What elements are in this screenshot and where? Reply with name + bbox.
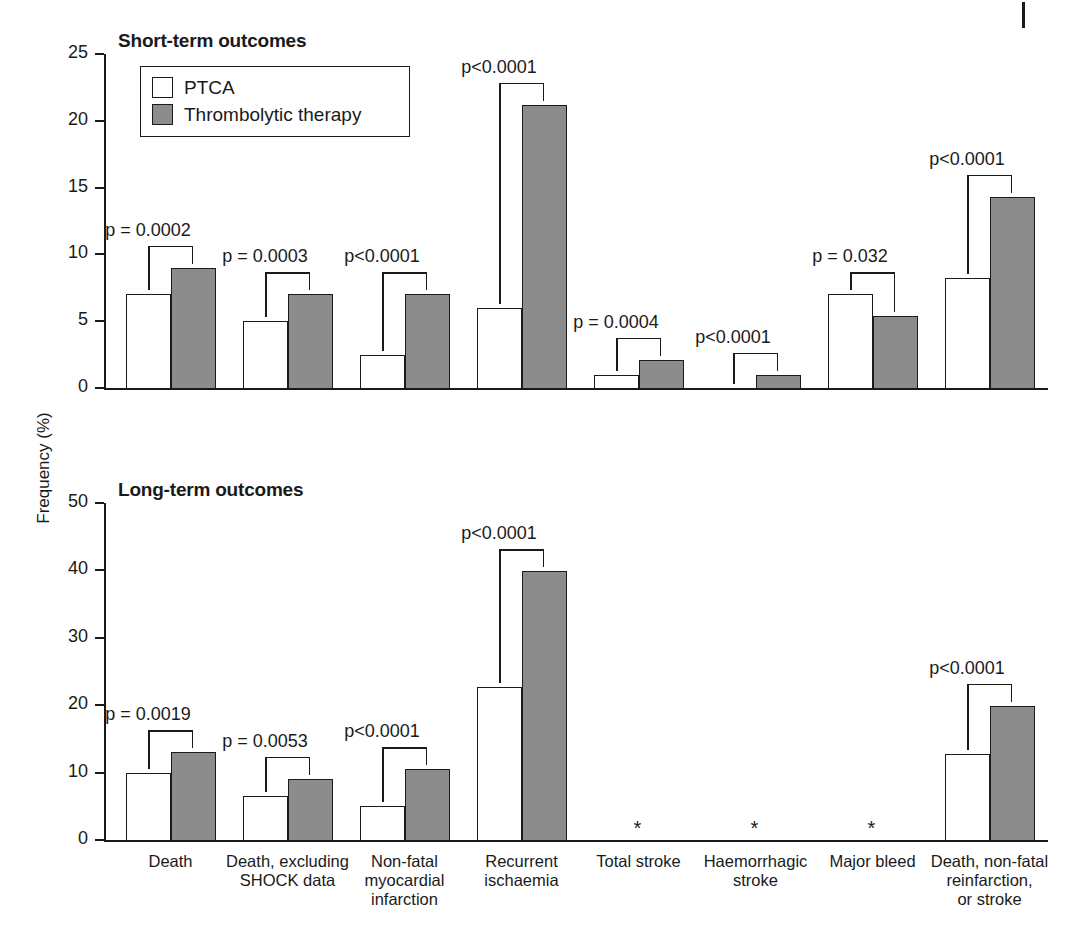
p-value-label: p<0.0001	[887, 658, 1047, 679]
y-tick-label: 5	[26, 309, 88, 330]
bracket-left-arm	[499, 83, 501, 304]
legend-label-ptca: PTCA	[184, 77, 235, 99]
y-tick	[95, 320, 104, 322]
page-edge-mark	[1022, 2, 1025, 28]
y-tick	[95, 772, 104, 774]
panel-title-short-term: Short-term outcomes	[118, 30, 306, 52]
category-label-0: Death	[106, 852, 235, 871]
category-label-4: Total stroke	[574, 852, 703, 871]
y-tick-label: 10	[26, 242, 88, 263]
bracket-right-arm	[426, 272, 428, 290]
bar-ptca	[243, 796, 288, 841]
bar-ptca	[477, 308, 522, 389]
bar-thrombolytic	[639, 360, 684, 389]
legend-swatch-throm	[152, 104, 173, 125]
bracket-top	[967, 175, 1012, 177]
bar-ptca	[945, 754, 990, 841]
bracket-right-arm	[894, 272, 896, 311]
bracket-left-arm	[850, 272, 852, 290]
legend-label-throm: Thrombolytic therapy	[184, 104, 361, 126]
y-tick	[95, 53, 104, 55]
y-tick	[95, 253, 104, 255]
category-label-3: Recurrent ischaemia	[457, 852, 586, 890]
legend-item-throm: Thrombolytic therapy	[152, 101, 397, 128]
bracket-left-arm	[148, 246, 150, 291]
bar-thrombolytic	[990, 197, 1035, 389]
bracket-left-arm	[967, 175, 969, 274]
y-tick	[95, 839, 104, 841]
p-value-label: p<0.0001	[887, 149, 1047, 170]
y-tick-label: 30	[26, 626, 88, 647]
bracket-right-arm	[543, 83, 545, 101]
bar-ptca	[477, 687, 522, 841]
bracket-right-arm	[1011, 684, 1013, 702]
bar-thrombolytic	[756, 375, 801, 389]
bracket-right-arm	[777, 353, 779, 371]
bar-thrombolytic	[288, 779, 333, 841]
bracket-right-arm	[543, 549, 545, 567]
bracket-left-arm	[616, 338, 618, 371]
bracket-left-arm	[265, 757, 267, 793]
y-tick-label: 0	[26, 376, 88, 397]
bracket-right-arm	[309, 757, 311, 775]
bracket-left-arm	[382, 272, 384, 350]
y-tick-label: 15	[26, 176, 88, 197]
bar-thrombolytic	[405, 769, 450, 841]
bar-thrombolytic	[288, 294, 333, 389]
bar-ptca	[594, 375, 639, 389]
y-tick-label: 10	[26, 761, 88, 782]
y-tick	[95, 120, 104, 122]
bracket-left-arm	[382, 747, 384, 802]
bracket-top	[265, 757, 310, 759]
bracket-right-arm	[426, 747, 428, 765]
y-tick-label: 25	[26, 42, 88, 63]
chart-legend: PTCAThrombolytic therapy	[140, 66, 410, 137]
bar-thrombolytic	[171, 752, 216, 841]
bracket-top	[850, 272, 895, 274]
bar-ptca	[126, 773, 171, 841]
missing-data-asterisk: *	[868, 818, 876, 838]
p-value-label: p<0.0001	[302, 721, 462, 742]
bar-thrombolytic	[873, 316, 918, 389]
bar-thrombolytic	[522, 105, 567, 389]
missing-data-asterisk: *	[751, 818, 759, 838]
bracket-right-arm	[309, 272, 311, 290]
bar-ptca	[360, 806, 405, 841]
p-value-label: p = 0.032	[770, 246, 930, 267]
bar-thrombolytic	[990, 706, 1035, 841]
p-value-label: p<0.0001	[419, 523, 579, 544]
bracket-left-arm	[499, 549, 501, 683]
p-value-label: p<0.0001	[419, 57, 579, 78]
bar-thrombolytic	[405, 294, 450, 389]
bracket-left-arm	[265, 272, 267, 317]
bar-ptca	[828, 294, 873, 389]
panel-title-long-term: Long-term outcomes	[118, 479, 303, 501]
p-value-label: p = 0.0002	[68, 220, 228, 241]
category-label-6: Major bleed	[808, 852, 937, 871]
bracket-left-arm	[733, 353, 735, 384]
category-label-2: Non-fatal myocardial infarction	[340, 852, 469, 909]
y-tick-label: 50	[26, 491, 88, 512]
bracket-top	[499, 83, 544, 85]
bracket-top	[733, 353, 778, 355]
category-label-1: Death, excluding SHOCK data	[223, 852, 352, 890]
y-tick	[95, 502, 104, 504]
bracket-top	[382, 272, 427, 274]
bar-ptca	[945, 278, 990, 389]
p-value-label: p = 0.0019	[68, 704, 228, 725]
p-value-label: p<0.0001	[302, 246, 462, 267]
bar-ptca	[126, 294, 171, 389]
category-label-7: Death, non-fatal reinfarction, or stroke	[925, 852, 1054, 909]
p-value-label: p<0.0001	[653, 327, 813, 348]
y-tick-label: 20	[26, 109, 88, 130]
y-axis-line	[104, 503, 106, 842]
bracket-right-arm	[1011, 175, 1013, 193]
bar-thrombolytic	[171, 268, 216, 389]
bracket-top	[499, 549, 544, 551]
bar-ptca	[243, 321, 288, 389]
legend-swatch-ptca	[152, 77, 173, 98]
y-tick	[95, 187, 104, 189]
bracket-top	[382, 747, 427, 749]
bar-thrombolytic	[522, 571, 567, 841]
legend-item-ptca: PTCA	[152, 74, 397, 101]
